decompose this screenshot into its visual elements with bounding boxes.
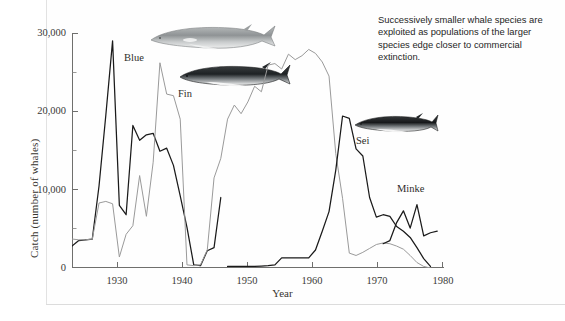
x-ticks	[118, 262, 443, 268]
y-axis-title: Catch (number of whales)	[28, 139, 40, 258]
x-tick-1930: 1930	[92, 275, 142, 286]
series-line-blue	[72, 41, 221, 266]
page-left-rule	[46, 0, 47, 305]
y-tick-0: 0	[16, 262, 66, 273]
y-minor-ticks	[73, 73, 77, 229]
whale-catch-figure: Successively smaller whale species are e…	[0, 0, 565, 321]
chart-canvas	[72, 33, 444, 268]
x-tick-1950: 1950	[222, 275, 272, 286]
y-tick-30000: 30,000	[10, 27, 66, 38]
page-bottom-rule	[46, 304, 565, 305]
x-tick-1940: 1940	[157, 275, 207, 286]
x-axis-title: Year	[0, 287, 565, 299]
y-tick-20000: 20,000	[10, 105, 66, 116]
series-line-fin	[72, 49, 430, 268]
y-tick-10000: 10,000	[10, 184, 66, 195]
page-bottom-margin	[0, 305, 565, 321]
series-line-sei	[228, 116, 431, 266]
x-tick-1980: 1980	[418, 275, 468, 286]
x-tick-1960: 1960	[287, 275, 337, 286]
x-tick-1970: 1970	[352, 275, 402, 286]
plot-area	[72, 33, 444, 268]
series-layer	[72, 41, 437, 268]
